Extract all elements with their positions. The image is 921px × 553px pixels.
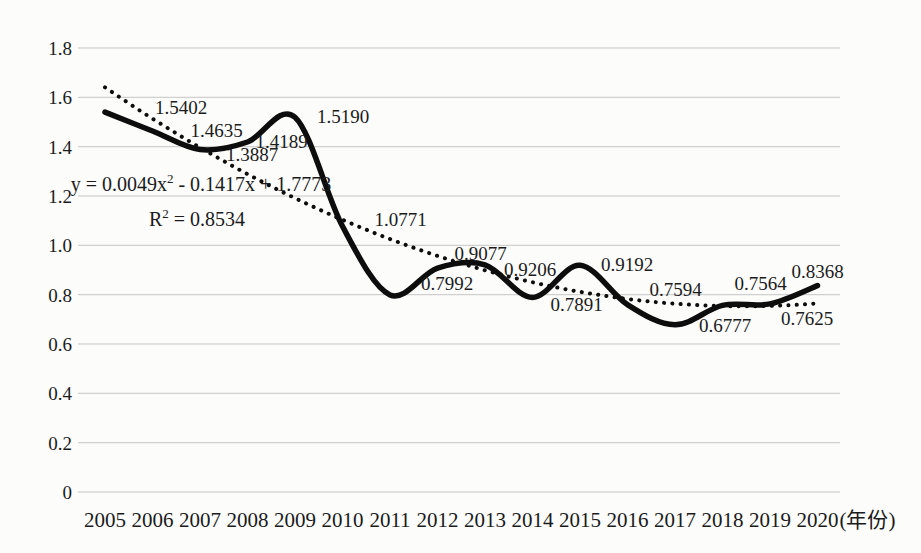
y-tick-label: 0.2 [48,433,72,454]
x-tick-label: 2012 [417,508,459,532]
data-point-label: 0.8368 [791,261,843,282]
data-point-label: 1.5402 [155,97,207,118]
x-tick-label: 2011 [369,508,410,532]
data-point-label: 1.4189 [255,131,307,152]
y-tick-label: 1.2 [48,186,72,207]
x-tick-label: 2015 [559,508,601,532]
x-tick-label: 2007 [179,508,221,532]
x-tick-label: 2010 [322,508,364,532]
x-tick-label: 2019 [749,508,791,532]
data-point-label: 0.7564 [734,273,787,294]
line-chart: 1.81.61.41.21.00.80.60.40.20200520062007… [0,0,921,553]
chart-figure: 1.81.61.41.21.00.80.60.40.20200520062007… [0,0,921,553]
data-point-label: 0.9206 [504,259,556,280]
data-point-label: 1.0771 [374,209,426,230]
x-axis-unit-label: (年份) [840,508,896,532]
x-tick-label: 2016 [607,508,649,532]
y-tick-label: 1.6 [48,87,72,108]
y-tick-label: 1.0 [48,235,72,256]
data-point-label: 0.7891 [550,294,602,315]
y-tick-label: 0.6 [48,334,72,355]
x-tick-label: 2008 [227,508,269,532]
data-point-label: 0.7625 [781,308,833,329]
data-point-label: 1.4635 [190,120,242,141]
y-tick-label: 0.4 [48,383,72,404]
x-tick-label: 2005 [84,508,126,532]
data-point-label: 1.5190 [317,106,369,127]
y-tick-label: 0.8 [48,285,72,306]
data-point-label: 0.9192 [601,254,653,275]
x-tick-label: 2018 [702,508,744,532]
data-point-label: 0.9077 [454,243,506,264]
y-tick-label: 1.8 [48,38,72,59]
x-tick-label: 2017 [654,508,696,532]
x-tick-label: 2009 [274,508,316,532]
y-tick-label: 1.4 [48,137,72,158]
data-point-label: 0.6777 [699,315,751,336]
x-tick-label: 2020 [797,508,839,532]
data-point-label: 0.7992 [421,273,473,294]
data-point-label: 0.7594 [649,279,702,300]
y-tick-label: 0 [63,482,73,503]
x-tick-label: 2013 [464,508,506,532]
x-tick-label: 2014 [512,508,555,532]
x-tick-label: 2006 [132,508,174,532]
r-squared-label: R2 = 0.8534 [149,206,245,230]
trendline-equation-label: y = 0.0049x2 - 0.1417x + 1.7773 [71,171,332,196]
